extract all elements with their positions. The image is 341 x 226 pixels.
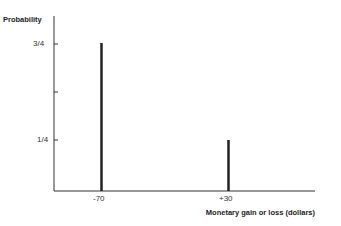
y-tick-label-1-4: 1/4 bbox=[37, 135, 48, 144]
y-tick-label-3-4: 3/4 bbox=[33, 39, 44, 48]
x-axis-title: Monetary gain or loss (dollars) bbox=[206, 208, 315, 217]
x-tick-label-pos30: +30 bbox=[219, 194, 233, 203]
chart-plot bbox=[0, 0, 341, 226]
x-tick-label-neg70: -70 bbox=[93, 194, 105, 203]
